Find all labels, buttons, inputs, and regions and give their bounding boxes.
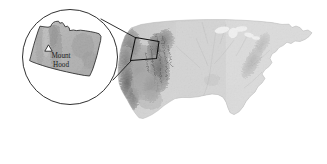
mount-hood-label-line-2: Hood [53,61,69,69]
mount-hood-label-line-1: Mount [51,52,70,60]
map-figure-canvas: Mount Hood [0,0,327,164]
us-shaded-relief-map [110,10,325,135]
relief-grain [110,10,325,135]
map-figure: Mount Hood [0,0,327,164]
